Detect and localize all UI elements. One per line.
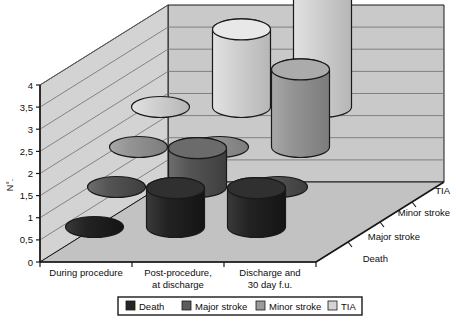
y-tick-2-5: 2,5 [20,146,33,157]
bar-death-during-procedure [66,217,124,238]
bar-top-tia-post-procedure [213,19,271,40]
bar-minor-stroke-during-procedure [110,137,168,158]
y-tick-2: 2 [28,168,33,179]
y-tick-0-5: 0,5 [20,234,33,245]
depth-label-minor-stroke: Minor stroke [398,207,450,218]
legend-swatch-minor-stroke [256,301,265,310]
legend-item-tia[interactable]: TIA [328,301,356,312]
depth-label-death: Death [363,253,388,264]
bar-death-post-procedure [147,178,205,238]
y-axis-title: N°. [5,179,15,192]
y-tick-3-5: 3,5 [20,102,33,113]
bar-minor-stroke-discharge-30day [272,59,330,158]
depth-label-tia: TIA [435,185,450,196]
legend-item-death[interactable]: Death [126,301,164,312]
depth-label-major-stroke: Major stroke [368,231,420,242]
bar-major-stroke-during-procedure [88,177,146,198]
chart-canvas: 4 3,5 3 2,5 2 1,5 1 0,5 0 N°. [0,0,456,321]
legend-label-death: Death [139,301,164,312]
category-label-post-procedure-line2: at discharge [152,279,204,290]
y-tick-1-5: 1,5 [20,190,33,201]
bar-top-major-stroke-post-procedure [169,138,227,159]
y-tick-4: 4 [28,80,33,91]
category-label-discharge-line1: Discharge and [239,267,300,278]
legend-swatch-major-stroke [182,301,191,310]
bar-chart-3d: 4 3,5 3 2,5 2 1,5 1 0,5 0 N°. [0,0,456,321]
bar-top-death-post-procedure [147,178,205,199]
bar-death-discharge-30day [228,178,286,238]
legend-label-major-stroke: Major stroke [195,301,247,312]
y-tick-3: 3 [28,124,33,135]
y-tick-1: 1 [28,212,33,223]
y-tick-0: 0 [28,257,33,268]
bar-tia-post-procedure [213,19,271,118]
legend-label-tia: TIA [341,301,356,312]
bar-top-minor-stroke-discharge-30day [272,59,330,80]
category-label-during-procedure: During procedure [49,267,122,278]
legend-swatch-death [126,301,135,310]
bar-tia-during-procedure [132,97,190,118]
category-label-post-procedure-line1: Post-procedure, [144,267,212,278]
legend: Death Major stroke Minor stroke TIA [118,297,362,315]
legend-swatch-tia [328,301,337,310]
bar-top-death-discharge-30day [228,178,286,199]
legend-label-minor-stroke: Minor stroke [269,301,321,312]
category-label-discharge-line2: 30 day f.u. [248,279,292,290]
